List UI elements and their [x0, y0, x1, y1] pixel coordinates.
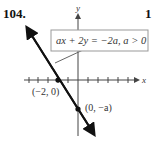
x-axis: [24, 77, 137, 83]
graph: x y (−2, 0) (0, −a) ax + 2y = −2a, a > 0: [0, 0, 156, 149]
y-axis-label: y: [75, 3, 80, 13]
point-x-intercept: [55, 77, 60, 82]
equation-text: ax + 2y = −2a, a > 0: [56, 35, 147, 46]
point-x-intercept-label: (−2, 0): [32, 86, 59, 98]
x-axis-label: x: [141, 75, 146, 85]
point-y-intercept: [75, 106, 80, 111]
leader-line: [55, 50, 83, 63]
point-y-intercept-label: (0, −a): [85, 102, 112, 114]
